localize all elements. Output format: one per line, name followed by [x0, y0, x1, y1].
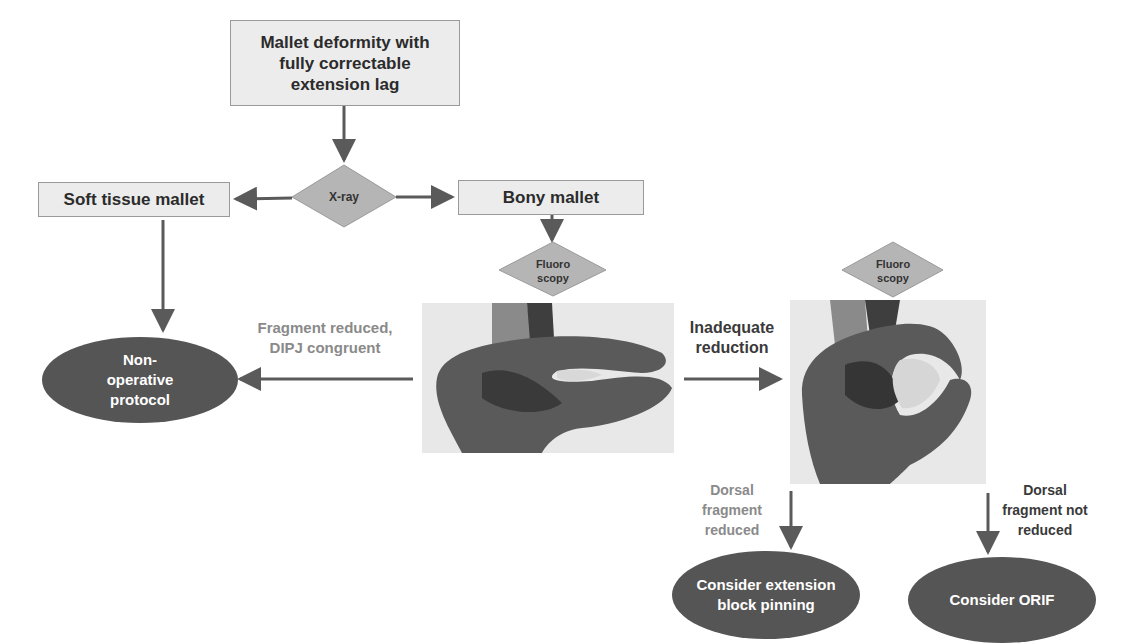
non-operative-node: Non-operative protocol — [42, 337, 238, 423]
extension-block-pinning-label: Consider extension block pinning — [696, 575, 836, 615]
hand-photo-inadequate — [790, 300, 986, 484]
fluoro-label-1: Fluoro scopy — [533, 257, 573, 285]
edge-label-reduced-text: Fragment reduced, DIPJ congruent — [257, 319, 392, 356]
fluoro-label-2: Fluoro scopy — [873, 257, 913, 285]
flowchart: Mallet deformity with fully correctable … — [0, 0, 1125, 643]
edge-label-inadequate: Inadequate reduction — [680, 318, 784, 358]
hand-illustration-2 — [790, 300, 986, 484]
edge-label-dorsal-reduced: Dorsal fragment reduced — [682, 480, 782, 540]
orif-node: Consider ORIF — [908, 557, 1096, 643]
start-node-label: Mallet deformity with fully correctable … — [231, 32, 459, 95]
xray-decision: X-ray — [300, 182, 388, 212]
bony-mallet-label: Bony mallet — [503, 187, 599, 208]
edge-label-dorsal-reduced-text: Dorsal fragment reduced — [697, 480, 767, 540]
extension-block-pinning-node: Consider extension block pinning — [672, 551, 860, 639]
soft-tissue-node: Soft tissue mallet — [38, 182, 230, 217]
hand-photo-reduced — [422, 303, 674, 453]
bony-mallet-node: Bony mallet — [458, 180, 644, 215]
xray-label: X-ray — [329, 190, 359, 204]
soft-tissue-label: Soft tissue mallet — [64, 189, 205, 210]
fluoro-decision-2: Fluoro scopy — [860, 256, 926, 286]
fluoro-decision-1: Fluoro scopy — [520, 256, 586, 286]
start-node: Mallet deformity with fully correctable … — [230, 20, 460, 106]
hand-illustration-1 — [422, 303, 674, 453]
edge-label-dorsal-not-reduced-text: Dorsal fragment not reduced — [1000, 480, 1090, 540]
orif-label: Consider ORIF — [949, 590, 1054, 610]
edge-label-reduced: Fragment reduced, DIPJ congruent — [240, 318, 410, 358]
non-operative-label: Non-operative protocol — [95, 350, 185, 410]
edge-label-inadequate-text: Inadequate reduction — [690, 319, 774, 356]
edge-label-dorsal-not-reduced: Dorsal fragment not reduced — [995, 480, 1095, 540]
